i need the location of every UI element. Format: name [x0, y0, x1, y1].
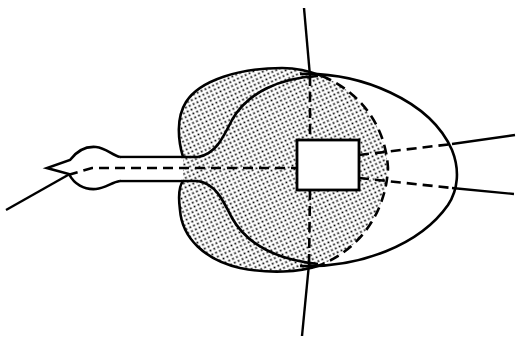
central-rectangle — [297, 140, 359, 190]
diagram-svg — [0, 0, 519, 342]
right-lower-ray-solid — [452, 188, 514, 194]
vertical-axis-bottom — [302, 264, 309, 336]
left-diagonal-line — [6, 175, 68, 210]
diagram-canvas — [0, 0, 519, 342]
head-outline — [47, 147, 120, 189]
right-upper-ray-solid — [452, 135, 515, 144]
vertical-axis-top — [304, 8, 310, 76]
